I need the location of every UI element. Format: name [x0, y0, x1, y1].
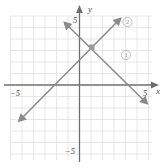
- line-one-badge-label: 1: [124, 51, 127, 58]
- x-axis-tick-positive-five: 5: [143, 88, 147, 98]
- x-axis-label: x: [155, 86, 160, 96]
- figure-background: [0, 0, 165, 167]
- coordinate-plane-svg: 2 1 y x −5 5 5 −5: [0, 0, 165, 167]
- y-axis-tick-positive-five: 5: [73, 15, 77, 25]
- intersection-point-marker: [89, 45, 95, 51]
- y-axis-tick-negative-five: −5: [65, 146, 75, 156]
- x-axis-tick-negative-five: −5: [10, 88, 20, 98]
- graph-figure: 2 1 y x −5 5 5 −5: [0, 0, 165, 167]
- line-two-badge-label: 2: [126, 18, 129, 25]
- y-axis-label: y: [87, 4, 92, 14]
